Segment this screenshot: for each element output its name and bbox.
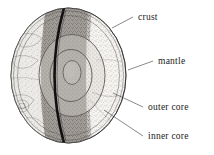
label-mantle: mantle bbox=[158, 56, 185, 66]
diagram-canvas: crust mantle outer core inner core bbox=[0, 0, 214, 155]
label-crust: crust bbox=[138, 12, 158, 22]
layer-labels: crust mantle outer core inner core bbox=[138, 12, 189, 141]
earth-interior-diagram: crust mantle outer core inner core bbox=[0, 0, 214, 155]
label-outer-core: outer core bbox=[148, 102, 189, 112]
globe-group bbox=[0, 0, 126, 155]
leader-line-mantle bbox=[128, 61, 153, 70]
leader-line-crust bbox=[112, 17, 133, 28]
label-inner-core: inner core bbox=[148, 131, 189, 141]
